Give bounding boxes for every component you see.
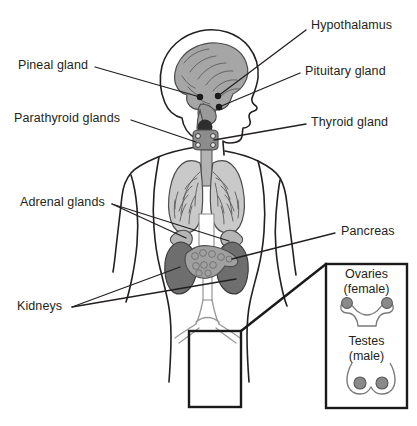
inset-label-testes: Testes — [326, 334, 407, 349]
inset-label-ovaries: Ovaries — [326, 267, 407, 282]
inset-label-testes-sex: (male) — [326, 349, 407, 364]
endocrine-system-diagram: Hypothalamus Pituitary gland Thyroid gla… — [0, 0, 417, 426]
pelvis-group — [175, 300, 240, 343]
label-thyroid-gland: Thyroid gland — [311, 115, 388, 129]
label-pineal-gland: Pineal gland — [18, 58, 88, 72]
label-hypothalamus: Hypothalamus — [311, 18, 392, 32]
testis-left-shape — [354, 377, 366, 389]
ovary-left-shape — [342, 298, 353, 309]
brain-group — [175, 43, 248, 136]
label-adrenal-glands: Adrenal glands — [20, 195, 105, 209]
trachea-shape — [201, 150, 212, 186]
label-kidneys: Kidneys — [17, 299, 62, 313]
waist-right-outline — [247, 161, 265, 382]
testis-right-shape — [376, 377, 388, 389]
arm-right-inner — [275, 180, 287, 306]
leader-pancreas — [232, 233, 335, 259]
gonad-callout-rectangle — [189, 331, 241, 407]
label-pituitary-gland: Pituitary gland — [305, 64, 386, 78]
leader-thyroid — [214, 124, 306, 140]
inset-label-ovaries-sex: (female) — [326, 282, 407, 297]
ovary-right-shape — [382, 298, 393, 309]
label-parathyroid-glands: Parathyroid glands — [14, 111, 120, 125]
callout-connector-line — [241, 264, 326, 331]
label-pancreas: Pancreas — [341, 224, 395, 238]
